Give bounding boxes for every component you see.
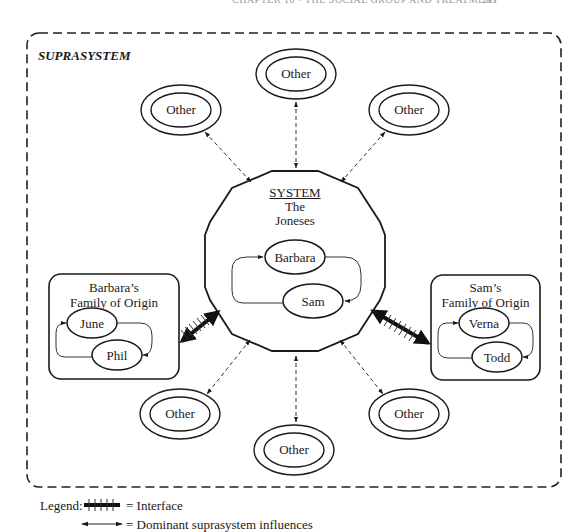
legend-interface-label: = Interface bbox=[126, 498, 183, 513]
todd-label: Todd bbox=[472, 350, 522, 365]
phil-label: Phil bbox=[92, 348, 142, 363]
sam-family-title-line2: Family of Origin bbox=[431, 295, 540, 310]
other-label-top-left: Other bbox=[161, 102, 201, 117]
sam-family-title-line1: Sam’s bbox=[431, 280, 540, 295]
system-name-line1: The bbox=[255, 199, 335, 214]
other-label-bottom: Other bbox=[274, 442, 314, 457]
sam-label: Sam bbox=[283, 294, 343, 309]
june-label: June bbox=[67, 316, 117, 331]
barbara-family-title-line1: Barbara’s bbox=[49, 280, 179, 295]
system-title: SYSTEM bbox=[255, 185, 335, 200]
system-name-line2: Joneses bbox=[255, 213, 335, 228]
other-label-bottom-right: Other bbox=[389, 406, 429, 421]
interface-right bbox=[373, 311, 428, 343]
suprasystem-label: SUPRASYSTEM bbox=[38, 48, 130, 64]
barbara-family-title-line2: Family of Origin bbox=[49, 295, 179, 310]
barbara-label: Barbara bbox=[265, 250, 325, 265]
legend-interface-symbol bbox=[84, 499, 120, 511]
legend-influence-label: = Dominant suprasystem influences bbox=[126, 517, 313, 532]
other-label-top: Other bbox=[276, 66, 316, 81]
legend-prefix: Legend: bbox=[40, 498, 83, 513]
verna-label: Verna bbox=[459, 316, 509, 331]
other-label-top-right: Other bbox=[389, 102, 429, 117]
other-label-bottom-left: Other bbox=[160, 406, 200, 421]
interface-left bbox=[181, 312, 218, 341]
